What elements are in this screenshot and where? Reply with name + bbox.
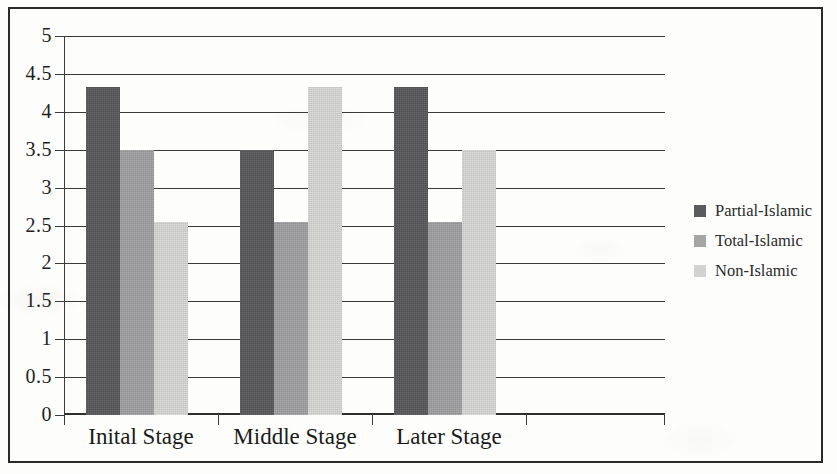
bar-0-1 bbox=[240, 150, 274, 415]
chart-legend: Partial-IslamicTotal-IslamicNon-Islamic bbox=[694, 196, 824, 286]
bar-2-1 bbox=[308, 87, 342, 415]
y-tick-label: 4 bbox=[42, 100, 53, 123]
y-tick-mark bbox=[55, 188, 65, 189]
bar-fill bbox=[462, 150, 496, 415]
bar-fill bbox=[308, 87, 342, 415]
bar-0-2 bbox=[394, 87, 428, 415]
chart-figure: 54.543.532.521.510.50 Inital StageMiddle… bbox=[0, 0, 837, 474]
gridline bbox=[64, 150, 665, 151]
y-tick-mark bbox=[55, 377, 65, 378]
y-tick-label: 2.5 bbox=[26, 214, 53, 237]
y-tick-mark bbox=[55, 226, 65, 227]
legend-item-2: Non-Islamic bbox=[694, 256, 824, 286]
x-tick-mark bbox=[526, 414, 527, 425]
y-tick-mark bbox=[55, 36, 65, 37]
bar-fill bbox=[86, 87, 120, 415]
y-tick-label: 1.5 bbox=[26, 289, 53, 312]
bar-2-0 bbox=[154, 222, 188, 415]
x-tick-mark bbox=[64, 414, 65, 425]
x-category-label: Middle Stage bbox=[233, 424, 356, 450]
y-tick-label: 4.5 bbox=[26, 62, 53, 85]
gridline bbox=[64, 74, 665, 75]
x-category-label: Inital Stage bbox=[88, 424, 193, 450]
plot-area: 54.543.532.521.510.50 bbox=[64, 36, 665, 415]
bar-0-0 bbox=[86, 87, 120, 415]
bar-1-1 bbox=[274, 222, 308, 415]
gridline bbox=[64, 36, 665, 37]
bar-fill bbox=[274, 222, 308, 415]
bar-fill bbox=[240, 150, 274, 415]
bar-fill bbox=[120, 150, 154, 415]
y-tick-mark bbox=[55, 263, 65, 264]
legend-label: Partial-Islamic bbox=[715, 201, 812, 221]
y-tick-mark bbox=[55, 112, 65, 113]
y-tick-label: 3 bbox=[42, 176, 53, 199]
bar-fill bbox=[154, 222, 188, 415]
bar-1-0 bbox=[120, 150, 154, 415]
bar-fill bbox=[428, 222, 462, 415]
y-tick-mark bbox=[55, 339, 65, 340]
y-tick-label: 0 bbox=[42, 403, 53, 426]
y-tick-label: 1 bbox=[42, 327, 53, 350]
y-tick-label: 5 bbox=[42, 24, 53, 47]
legend-swatch-icon bbox=[694, 205, 706, 217]
y-tick-mark bbox=[55, 74, 65, 75]
legend-item-1: Total-Islamic bbox=[694, 226, 824, 256]
legend-item-0: Partial-Islamic bbox=[694, 196, 824, 226]
gridline bbox=[64, 188, 665, 189]
y-tick-label: 2 bbox=[42, 251, 53, 274]
bar-1-2 bbox=[428, 222, 462, 415]
x-tick-mark bbox=[372, 414, 373, 425]
y-tick-label: 0.5 bbox=[26, 365, 53, 388]
bar-2-2 bbox=[462, 150, 496, 415]
bar-fill bbox=[394, 87, 428, 415]
gridline bbox=[64, 112, 665, 113]
x-tick-mark bbox=[218, 414, 219, 425]
x-category-label: Later Stage bbox=[396, 424, 501, 450]
x-tick-mark bbox=[664, 414, 665, 425]
legend-swatch-icon bbox=[694, 265, 706, 277]
y-tick-mark bbox=[55, 301, 65, 302]
y-tick-mark bbox=[55, 150, 65, 151]
legend-label: Total-Islamic bbox=[715, 231, 803, 251]
y-tick-label: 3.5 bbox=[26, 138, 53, 161]
legend-label: Non-Islamic bbox=[715, 261, 797, 281]
legend-swatch-icon bbox=[694, 235, 706, 247]
